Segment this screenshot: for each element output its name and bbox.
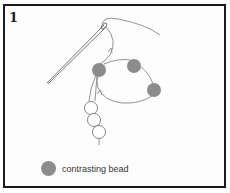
plain-bead (88, 114, 101, 127)
plain-bead (93, 126, 106, 139)
contrasting-bead (147, 83, 161, 97)
contrasting-bead (92, 63, 106, 77)
thread-to-needle (100, 27, 113, 64)
arrow-up-icon (108, 48, 112, 53)
thread-loop-bottom (97, 77, 152, 103)
arrow-loop-icon (97, 90, 102, 95)
legend: contrasting bead (41, 161, 129, 176)
thread-tail (102, 18, 160, 35)
contrasting-bead-swatch (41, 161, 56, 176)
plain-bead (85, 102, 98, 115)
legend-label: contrasting bead (62, 164, 129, 174)
contrasting-bead (127, 59, 141, 73)
